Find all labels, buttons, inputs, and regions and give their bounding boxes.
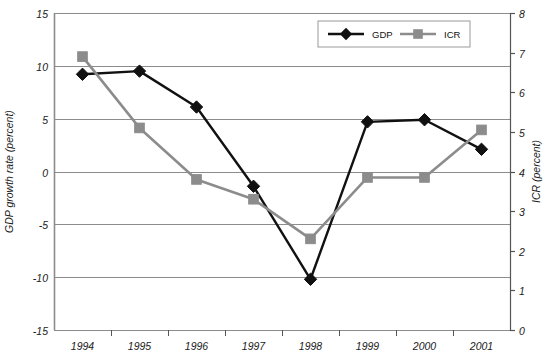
data-point-icr-1994 [78,52,88,62]
y-axis-tick-label: -5 [39,219,48,231]
x-axis-tick-label: 2000 [412,340,437,352]
series-line-icr [83,57,482,239]
y-axis-title: GDP growth rate (percent) [3,110,15,233]
y2-axis-tick-label: 5 [519,127,525,139]
data-point-icr-2000 [420,173,430,183]
y2-axis-tick-label: 0 [519,325,525,337]
data-point-gdp-2000 [418,114,430,126]
data-point-icr-1999 [363,173,373,183]
square-marker-icon [413,29,423,39]
y-axis-tick-label: 15 [36,8,48,20]
data-point-icr-1996 [192,175,202,185]
x-axis-tick-label: 1995 [128,340,152,352]
x-axis-tick-label: 1996 [185,340,209,352]
y2-axis-tick-label: 7 [519,48,526,60]
y-axis-tick-label: 10 [36,61,48,73]
data-point-gdp-1994 [76,68,88,80]
y-axis-tick-label: -10 [33,272,48,284]
y2-axis-tick-label: 4 [519,167,525,179]
y2-axis-tick-label: 2 [518,246,525,258]
y2-axis-tick-label: 1 [519,285,525,297]
chart-container: 151050-5-10-1587654321019941995199619971… [0,0,549,356]
x-axis-tick-label: 1998 [299,340,323,352]
data-point-icr-1998 [306,234,316,244]
x-axis-tick-label: 2001 [469,340,493,352]
data-point-icr-1997 [249,194,259,204]
x-axis-tick-label: 1999 [356,340,380,352]
data-point-icr-2001 [477,125,487,135]
data-point-gdp-2001 [475,143,487,155]
x-axis-tick-label: 1997 [242,340,267,352]
x-axis-tick-label: 1994 [71,340,95,352]
y2-axis-title: ICR (percent) [530,140,542,203]
y2-axis-tick-label: 6 [519,87,525,99]
legend-label-icr: ICR [444,29,461,40]
y-axis-tick-label: -15 [33,325,48,337]
y-axis-tick-label: 0 [42,167,48,179]
dual-axis-line-chart: 151050-5-10-1587654321019941995199619971… [0,0,549,356]
y-axis-tick-label: 5 [42,114,48,126]
legend-label-gdp: GDP [372,29,393,40]
y2-axis-tick-label: 3 [519,206,525,218]
data-point-gdp-1999 [361,116,373,128]
y2-axis-tick-label: 8 [519,8,525,20]
data-point-icr-1995 [135,123,145,133]
data-point-gdp-1998 [304,273,316,285]
